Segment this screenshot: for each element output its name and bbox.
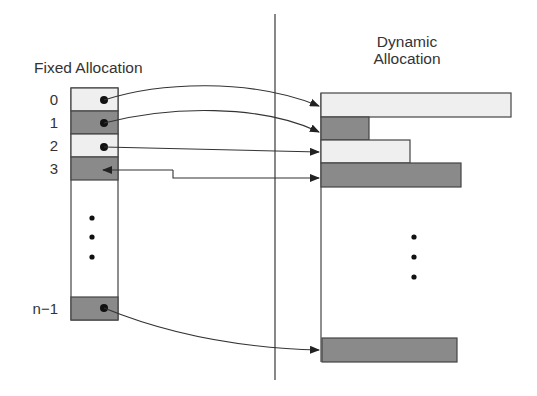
allocation-diagram: [0, 0, 537, 396]
pointer-arrow-1: [104, 111, 319, 132]
dynamic-block-3: [321, 163, 461, 187]
dynamic-block-1: [321, 117, 369, 140]
fixed-slot-1: [71, 111, 118, 134]
fixed-slot-0: [71, 88, 118, 111]
dynamic-block-2: [321, 140, 410, 163]
fixed-slot-3: [71, 157, 118, 180]
dynamic-block-n-minus-1: [322, 338, 457, 362]
pointer-arrow-n-minus-1: [104, 308, 319, 350]
dynamic-block-0: [321, 93, 511, 117]
pointer-arrow-3: [173, 170, 319, 178]
pointer-arrow-0: [104, 86, 319, 106]
pointer-arrow-2: [104, 147, 319, 152]
fixed-slot-n-minus-1: [71, 297, 118, 320]
dynamic-ellipsis-icon: [411, 234, 416, 279]
fixed-slot-2: [71, 134, 118, 157]
